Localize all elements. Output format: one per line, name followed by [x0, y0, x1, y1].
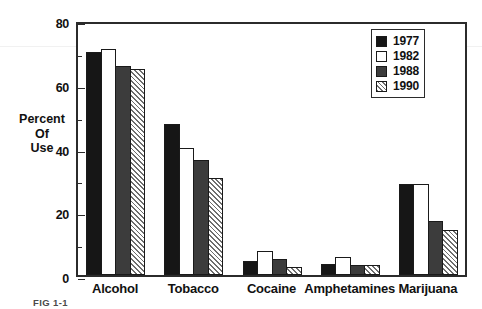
- y-tick-label-0: 0: [62, 272, 78, 286]
- legend-item-1990[interactable]: 1990: [376, 79, 419, 93]
- y-tick-mark-80: [78, 24, 85, 25]
- bar-amphetamines-1982[interactable]: [335, 257, 351, 275]
- legend-item-1988[interactable]: 1988: [376, 64, 419, 78]
- bar-marijuana-1977[interactable]: [399, 184, 415, 275]
- bar-tobacco-1977[interactable]: [164, 124, 180, 275]
- y-axis-title-line-1: Percent: [11, 112, 73, 127]
- y-tick-minor-30: [78, 183, 82, 184]
- chart-legend: 1977 1982 1988 1990: [371, 29, 425, 98]
- legend-swatch-1988: [376, 66, 387, 77]
- y-tick-label-60: 60: [56, 81, 78, 95]
- y-tick-label-80: 80: [56, 17, 78, 31]
- y-tick-minor-70: [78, 56, 82, 57]
- y-tick-minor-50: [78, 120, 82, 121]
- figure-caption: FIG 1-1: [33, 297, 68, 308]
- y-tick-minor-10: [78, 247, 82, 248]
- y-tick-mark-40: [78, 152, 85, 153]
- x-axis-label-alcohol: Alcohol: [92, 281, 138, 296]
- x-axis-label-marijuana: Marijuana: [398, 281, 457, 296]
- bar-tobacco-1988[interactable]: [193, 160, 209, 275]
- chart-figure: Percent Of Use 020406080 AlcoholTobaccoC…: [0, 0, 482, 309]
- bar-cocaine-1982[interactable]: [257, 251, 273, 275]
- bar-alcohol-1988[interactable]: [115, 66, 131, 275]
- legend-label-1988: 1988: [393, 64, 419, 78]
- bar-alcohol-1977[interactable]: [86, 52, 102, 275]
- bar-alcohol-1990[interactable]: [130, 69, 146, 275]
- y-tick-mark-60: [78, 88, 85, 89]
- bar-cocaine-1988[interactable]: [272, 259, 288, 275]
- bar-marijuana-1988[interactable]: [428, 221, 444, 275]
- bar-amphetamines-1977[interactable]: [321, 264, 337, 275]
- bar-cocaine-1990[interactable]: [286, 267, 302, 275]
- legend-swatch-1982: [376, 51, 387, 62]
- y-tick-label-20: 20: [56, 208, 78, 222]
- x-axis-label-cocaine: Cocaine: [247, 281, 296, 296]
- x-axis-label-tobacco: Tobacco: [168, 281, 219, 296]
- bar-amphetamines-1990[interactable]: [364, 265, 380, 275]
- y-tick-mark-20: [78, 215, 85, 216]
- bar-group-cocaine: [243, 20, 305, 275]
- bar-tobacco-1990[interactable]: [208, 178, 224, 275]
- bar-group-alcohol: [86, 20, 148, 275]
- bar-alcohol-1982[interactable]: [101, 49, 117, 275]
- legend-item-1977[interactable]: 1977: [376, 34, 419, 48]
- legend-label-1982: 1982: [393, 49, 419, 63]
- x-axis-label-amphetamines: Amphetamines: [304, 281, 395, 296]
- legend-label-1977: 1977: [393, 34, 419, 48]
- legend-item-1982[interactable]: 1982: [376, 49, 419, 63]
- bar-cocaine-1977[interactable]: [243, 261, 259, 275]
- y-tick-label-40: 40: [56, 145, 78, 159]
- y-tick-mark-0: [78, 279, 85, 280]
- legend-swatch-1977: [376, 36, 387, 47]
- bar-tobacco-1982[interactable]: [179, 148, 195, 276]
- bar-amphetamines-1988[interactable]: [350, 265, 366, 275]
- legend-label-1990: 1990: [393, 79, 419, 93]
- y-axis-title-line-2: Of: [11, 127, 73, 142]
- legend-swatch-1990: [376, 81, 387, 92]
- bar-marijuana-1982[interactable]: [413, 184, 429, 275]
- bar-group-tobacco: [164, 20, 226, 275]
- bar-marijuana-1990[interactable]: [442, 230, 458, 275]
